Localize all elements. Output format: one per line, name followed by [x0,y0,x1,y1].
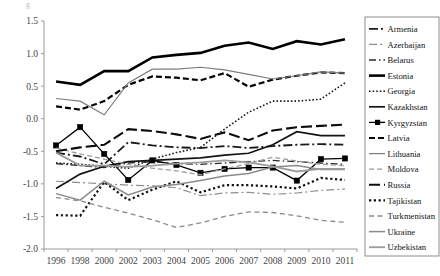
legend-item-label: Belarus [388,55,415,65]
series-line-armenia [56,142,345,164]
x-axis-tick-label: 1998 [71,256,90,266]
series-marker-kyrgyzstan [294,178,299,183]
series-marker-kyrgyzstan [342,156,347,161]
y-axis-tick-label: 0.0 [26,114,38,124]
legend-item-label: Russia [388,180,411,190]
chart-figure: 1.51.00.50.0-0.5-1.0-1.5-2.0199619982000… [0,0,440,276]
x-axis-tick-label: 2002 [119,256,138,266]
x-axis-tick-label: 2007 [239,256,258,266]
legend-item-label: Latvia [388,133,410,143]
y-axis-tick-label: 0.5 [26,82,38,92]
line-chart: 1.51.00.50.0-0.5-1.0-1.5-2.0199619982000… [0,0,440,276]
series-marker-kyrgyzstan [53,143,58,148]
series-marker-kyrgyzstan [150,158,155,163]
series-line-latvia [56,72,345,109]
legend-item-label: Estonia [388,71,414,81]
legend-item-label: Azerbaijan [388,40,426,50]
series-line-georgia [56,83,345,168]
legend-swatch-marker [375,120,380,125]
legend-item-label: Turkmenistan [388,211,436,221]
cut-off-glyph: g [26,0,30,9]
legend-item-label: Moldova [388,164,419,174]
plot-area [53,39,347,227]
legend-item-label: Kyrgyzstan [388,118,428,128]
legend-item-label: Tajikistan [388,196,422,206]
series-line-turkmenistan [56,198,345,228]
y-axis-tick-label: -0.5 [23,147,38,157]
y-axis-tick-label: -1.5 [23,212,38,222]
x-axis-tick-label: 2003 [143,256,162,266]
legend-item-label: Uzbekistan [388,242,427,252]
series-marker-kyrgyzstan [102,151,107,156]
x-axis-tick-label: 2006 [215,256,234,266]
series-marker-kyrgyzstan [246,165,251,170]
legend-item-label: Kazakhstan [388,102,429,112]
legend-item-label: Georgia [388,86,416,96]
legend-item-label: Armenia [388,24,418,34]
y-axis-tick-label: -1.0 [23,179,38,189]
x-axis-tick-label: 2011 [336,256,355,266]
x-axis-tick-label: 2000 [95,256,114,266]
series-marker-kyrgyzstan [126,177,131,182]
series-marker-kyrgyzstan [78,125,83,130]
x-axis-tick-label: 1996 [47,256,66,266]
y-axis-tick-label: 1.0 [26,49,38,59]
chart-legend: ArmeniaAzerbaijanBelarusEstoniaGeorgiaKa… [365,17,439,256]
y-axis-tick-label: 1.5 [26,16,38,26]
x-axis-tick-label: 2004 [167,256,186,266]
x-axis-tick-label: 2005 [191,256,210,266]
legend-item-label: Ukraine [388,227,416,237]
x-axis-tick-label: 2009 [287,256,306,266]
cut-off-header-text: g [26,0,30,9]
x-axis-tick-label: 2010 [311,256,330,266]
series-line-estonia [56,39,345,85]
legend-item-label: Lithuania [388,149,421,159]
series-marker-kyrgyzstan [318,157,323,162]
y-axis-tick-label: -2.0 [23,244,38,254]
series-layer [53,39,347,227]
x-axis-tick-label: 2008 [263,256,282,266]
